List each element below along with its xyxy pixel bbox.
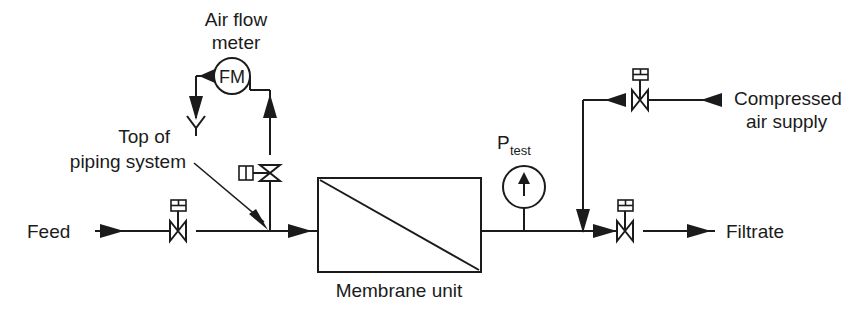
filtrate-label: Filtrate	[726, 221, 784, 242]
flow-meter-tag-label: FM	[219, 67, 245, 87]
air-to-meter-arrowhead	[263, 94, 277, 118]
feed-line-group	[95, 224, 318, 238]
top-of-piping-label-line2: piping system	[70, 151, 186, 172]
top-of-piping-label-line1: Top of	[118, 126, 170, 147]
process-flow-diagram: FM Air flow meter Top of piping system F…	[0, 0, 860, 311]
top-of-piping-leader-arrowhead	[249, 209, 268, 230]
filtrate-outlet-arrowhead	[687, 224, 711, 238]
compressed-air-line-group	[576, 93, 722, 233]
pressure-test-label: P test	[497, 132, 531, 158]
air-branch-group	[250, 76, 277, 231]
pid-canvas: FM Air flow meter Top of piping system F…	[0, 0, 860, 311]
compressed-air-left-arrowhead	[605, 93, 626, 107]
feed-valve[interactable]	[170, 200, 186, 241]
membrane-unit[interactable]	[318, 178, 481, 272]
feed-label: Feed	[27, 221, 70, 242]
air-flow-meter[interactable]: FM	[214, 58, 250, 94]
compressed-air-valve[interactable]	[632, 69, 648, 110]
compressed-air-supply-arrowhead	[701, 93, 722, 107]
pressure-test-symbol-label: P	[497, 132, 510, 153]
filtrate-valve[interactable]	[617, 200, 633, 241]
pressure-test-subscript-label: test	[510, 143, 531, 158]
filtrate-valve-inlet-arrowhead	[593, 224, 617, 238]
air-flow-meter-label: Air flow meter	[205, 9, 268, 53]
air-branch-valve[interactable]	[239, 165, 280, 181]
air-flow-meter-label-line1: Air flow	[205, 9, 268, 30]
meter-to-vent-arrowhead	[199, 69, 215, 83]
to-membrane-arrowhead	[288, 224, 312, 238]
filtrate-line-group	[481, 224, 715, 238]
vent-line-group	[187, 69, 215, 136]
compressed-air-supply-label: Compressed air supply	[734, 88, 842, 132]
compressed-air-label-line2: air supply	[746, 111, 828, 132]
pressure-test-gauge[interactable]	[503, 166, 545, 231]
membrane-unit-label: Membrane unit	[336, 280, 463, 301]
feed-inlet-arrowhead	[100, 224, 124, 238]
compressed-air-label-line1: Compressed	[734, 88, 842, 109]
air-flow-meter-label-line2: meter	[212, 32, 261, 53]
compressed-air-down-arrowhead	[576, 209, 590, 233]
vent-discharge-arrowhead	[189, 96, 203, 120]
